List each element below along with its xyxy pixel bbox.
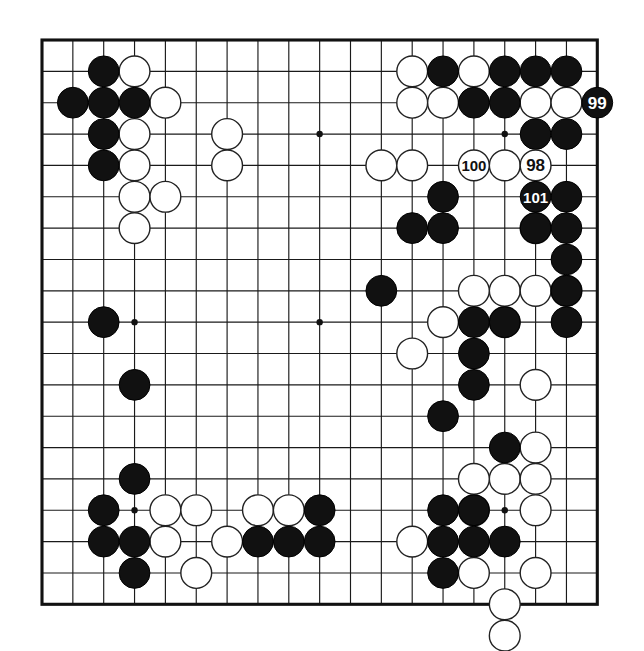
black-stone[interactable]: [428, 213, 459, 244]
white-stone[interactable]: [119, 213, 150, 244]
star-point: [316, 319, 322, 325]
white-stone[interactable]: [489, 589, 520, 620]
white-stone[interactable]: [489, 464, 520, 495]
black-stone[interactable]: [119, 526, 150, 557]
white-stone[interactable]: [459, 464, 490, 495]
white-stone[interactable]: [119, 150, 150, 181]
black-stone[interactable]: [459, 307, 490, 338]
go-board-container: 9910098101: [0, 0, 644, 651]
white-stone[interactable]: [397, 56, 428, 87]
black-stone[interactable]: [551, 213, 582, 244]
black-stone[interactable]: [520, 213, 551, 244]
black-stone[interactable]: [520, 119, 551, 150]
black-stone[interactable]: [428, 526, 459, 557]
white-stone[interactable]: [397, 150, 428, 181]
white-stone[interactable]: [459, 558, 490, 589]
black-stone[interactable]: [88, 119, 119, 150]
black-stone[interactable]: [459, 338, 490, 369]
black-stone[interactable]: [551, 119, 582, 150]
black-stone[interactable]: [428, 495, 459, 526]
white-stone[interactable]: [459, 56, 490, 87]
white-stone[interactable]: [243, 495, 274, 526]
black-stone[interactable]: [273, 526, 304, 557]
move-label-101: 101: [523, 189, 548, 206]
black-stone[interactable]: [551, 56, 582, 87]
black-stone[interactable]: [459, 495, 490, 526]
black-stone[interactable]: [489, 432, 520, 463]
black-stone[interactable]: [119, 464, 150, 495]
white-stone[interactable]: [212, 526, 243, 557]
star-point: [131, 507, 137, 513]
white-stone[interactable]: [273, 495, 304, 526]
star-point: [502, 507, 508, 513]
black-stone[interactable]: [304, 495, 335, 526]
black-stone[interactable]: [551, 244, 582, 275]
black-stone[interactable]: [119, 87, 150, 118]
black-stone[interactable]: [459, 369, 490, 400]
black-stone[interactable]: [489, 526, 520, 557]
black-stone[interactable]: [119, 558, 150, 589]
black-stone[interactable]: [366, 275, 397, 306]
white-stone[interactable]: [212, 119, 243, 150]
white-stone[interactable]: [520, 369, 551, 400]
black-stone[interactable]: [489, 87, 520, 118]
black-stone[interactable]: [551, 275, 582, 306]
white-stone[interactable]: [397, 526, 428, 557]
white-stone[interactable]: [520, 87, 551, 118]
black-stone[interactable]: [88, 56, 119, 87]
white-stone[interactable]: [181, 495, 212, 526]
star-point: [316, 131, 322, 137]
black-stone[interactable]: [428, 558, 459, 589]
white-stone[interactable]: [119, 181, 150, 212]
black-stone[interactable]: [428, 181, 459, 212]
white-stone[interactable]: [150, 87, 181, 118]
black-stone[interactable]: [459, 87, 490, 118]
white-stone[interactable]: [489, 150, 520, 181]
white-stone[interactable]: [150, 526, 181, 557]
white-stone[interactable]: [520, 464, 551, 495]
star-point: [502, 131, 508, 137]
black-stone[interactable]: [428, 56, 459, 87]
white-stone[interactable]: [150, 181, 181, 212]
black-stone[interactable]: [57, 87, 88, 118]
black-stone[interactable]: [88, 495, 119, 526]
black-stone[interactable]: [119, 369, 150, 400]
black-stone[interactable]: [88, 87, 119, 118]
white-stone[interactable]: [520, 558, 551, 589]
black-stone[interactable]: [428, 401, 459, 432]
move-label-98: 98: [526, 156, 545, 175]
black-stone[interactable]: [88, 526, 119, 557]
white-stone[interactable]: [489, 275, 520, 306]
white-stone[interactable]: [119, 119, 150, 150]
black-stone[interactable]: [304, 526, 335, 557]
white-stone[interactable]: [428, 307, 459, 338]
move-label-99: 99: [588, 94, 607, 113]
go-board[interactable]: 9910098101: [0, 0, 644, 651]
black-stone[interactable]: [397, 213, 428, 244]
go-diagram-page: 9910098101: [0, 0, 644, 651]
white-stone[interactable]: [119, 56, 150, 87]
black-stone[interactable]: [88, 307, 119, 338]
black-stone[interactable]: [489, 307, 520, 338]
black-stone[interactable]: [489, 56, 520, 87]
white-stone[interactable]: [520, 275, 551, 306]
black-stone[interactable]: [459, 526, 490, 557]
star-point: [131, 319, 137, 325]
black-stone[interactable]: [520, 56, 551, 87]
white-stone[interactable]: [520, 495, 551, 526]
white-stone[interactable]: [212, 150, 243, 181]
white-stone[interactable]: [397, 338, 428, 369]
white-stone-off-board[interactable]: [489, 620, 520, 651]
black-stone[interactable]: [243, 526, 274, 557]
black-stone[interactable]: [551, 181, 582, 212]
white-stone[interactable]: [551, 87, 582, 118]
white-stone[interactable]: [150, 495, 181, 526]
white-stone[interactable]: [181, 558, 212, 589]
white-stone[interactable]: [428, 87, 459, 118]
white-stone[interactable]: [520, 432, 551, 463]
black-stone[interactable]: [88, 150, 119, 181]
black-stone[interactable]: [551, 307, 582, 338]
white-stone[interactable]: [366, 150, 397, 181]
white-stone[interactable]: [397, 87, 428, 118]
white-stone[interactable]: [459, 275, 490, 306]
